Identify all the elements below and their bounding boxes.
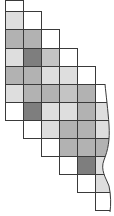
grid-cell-r6-c3: [60, 103, 78, 121]
grid-cell-r4-c0: [6, 67, 24, 85]
grid-cell-r6-c0: [6, 103, 24, 121]
grid-cell-r4-c4: [78, 67, 96, 85]
grid-cell-r3-c0: [6, 49, 24, 67]
grid-cell-r7-c5: [96, 121, 114, 139]
grid-cell-r7-c2: [42, 121, 60, 139]
grid-cell-r7-c3: [60, 121, 78, 139]
grid-cell-r8-c3: [60, 139, 78, 157]
grid-cell-r4-c3: [60, 67, 78, 85]
grid-cell-r7-c4: [78, 121, 96, 139]
grid-cell-r3-c2: [42, 49, 60, 67]
grid-cell-r9-c4: [78, 157, 96, 175]
grid-cell-r5-c5: [96, 85, 114, 103]
grid-cell-r0-c0: [6, 1, 24, 12]
grid-cell-r8-c2: [42, 139, 60, 157]
grid-cell-r10-c4: [78, 175, 96, 193]
grid-cell-r6-c5: [96, 103, 114, 121]
grid-cell-r10-c5: [96, 175, 114, 193]
grid-cell-r2-c0: [6, 30, 24, 49]
grid-cell-r4-c1: [24, 67, 42, 85]
grid-cell-r6-c2: [42, 103, 60, 121]
grid-cell-r8-c4: [78, 139, 96, 157]
grid-cell-r5-c4: [78, 85, 96, 103]
grid-cell-r3-c3: [60, 49, 78, 67]
grid-cell-r3-c1: [24, 49, 42, 67]
grid-cell-r2-c2: [42, 30, 60, 49]
grid-cell-r6-c1: [24, 103, 42, 121]
grid-cell-r6-c4: [78, 103, 96, 121]
staircase-grid-diagram: [0, 0, 113, 216]
grid-cell-r5-c3: [60, 85, 78, 103]
grid-cell-r1-c0: [6, 12, 24, 30]
grid-cell-r4-c2: [42, 67, 60, 85]
grid-canvas: [0, 0, 113, 216]
grid-cell-r8-c5: [96, 139, 114, 157]
grid-cell-r1-c1: [24, 12, 42, 30]
grid-cell-r5-c1: [24, 85, 42, 103]
grid-cell-r7-c1: [24, 121, 42, 139]
grid-cell-r9-c3: [60, 157, 78, 175]
grid-cells: [6, 1, 114, 211]
grid-cell-r5-c2: [42, 85, 60, 103]
grid-cell-r5-c0: [6, 85, 24, 103]
grid-cell-r2-c1: [24, 30, 42, 49]
